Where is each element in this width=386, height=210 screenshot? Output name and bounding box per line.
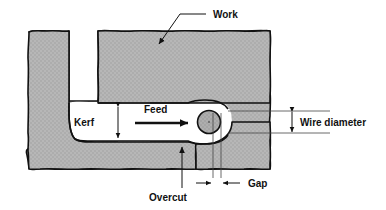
- upper-work-block: [98, 31, 270, 103]
- kerf-label: Kerf: [74, 117, 95, 128]
- wire-edm-diagram: Work Kerf Feed Wire diameter Overcut Gap: [0, 0, 386, 210]
- feed-label: Feed: [144, 104, 167, 115]
- gap-label: Gap: [248, 178, 267, 189]
- diagram-canvas: Work Kerf Feed Wire diameter Overcut Gap: [0, 0, 386, 210]
- wire-diameter-label: Wire diameter: [300, 117, 366, 128]
- annotation-gap: Gap: [196, 178, 267, 189]
- annotation-wire-diameter: Wire diameter: [292, 112, 366, 132]
- upper-block-outline: [98, 31, 270, 103]
- wire-electrode: [198, 111, 221, 134]
- work-label: Work: [213, 9, 238, 20]
- overcut-label: Overcut: [149, 192, 187, 203]
- wire-center-mark: [208, 121, 210, 123]
